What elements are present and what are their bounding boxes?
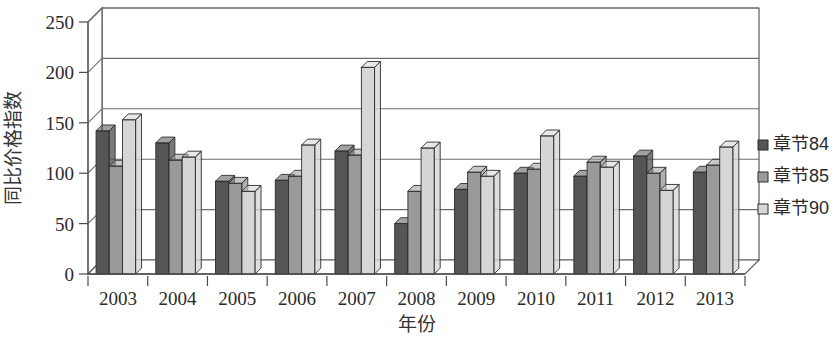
bar-group <box>216 175 261 274</box>
bar-front-face <box>541 136 554 274</box>
bar-side-face <box>195 151 201 274</box>
x-tick-label: 2007 <box>338 288 376 309</box>
x-tick-label: 2010 <box>517 288 555 309</box>
bar-front-face <box>454 189 467 274</box>
y-tick-label: 250 <box>46 12 75 33</box>
bar-front-face <box>660 190 673 274</box>
x-tick-label: 2005 <box>218 288 256 309</box>
legend-item[interactable]: 章节85 <box>758 166 829 186</box>
bar <box>660 184 679 274</box>
bar <box>242 185 261 274</box>
bar-side-face <box>673 184 679 274</box>
x-tick-label: 2006 <box>278 288 316 309</box>
bar-side-face <box>136 114 142 274</box>
bar-front-face <box>481 176 494 274</box>
bar-front-face <box>707 165 720 274</box>
bar-front-face <box>335 151 348 274</box>
bar-front-face <box>348 155 361 274</box>
bar-front-face <box>574 176 587 274</box>
bar-side-face <box>434 142 440 274</box>
bar-front-face <box>361 67 374 274</box>
y-tick-label: 50 <box>55 214 74 235</box>
bar-front-face <box>395 224 408 274</box>
bar <box>541 130 560 274</box>
bar-side-face <box>375 61 381 274</box>
bar <box>302 139 321 274</box>
y-tick-label: 100 <box>46 163 75 184</box>
bar-side-face <box>733 141 739 274</box>
legend-item[interactable]: 章节90 <box>758 198 829 218</box>
bar-front-face <box>527 169 540 274</box>
x-tick-label: 2009 <box>457 288 495 309</box>
bar-group <box>156 137 201 274</box>
x-axis: 2003200420052006200720082009201020112012… <box>88 274 745 309</box>
y-tick-label: 0 <box>65 264 75 285</box>
bar-front-face <box>216 181 229 274</box>
legend-label: 章节84 <box>773 134 829 154</box>
bar <box>481 170 500 274</box>
y-tick-label: 200 <box>46 62 75 83</box>
legend-swatch <box>758 204 768 214</box>
x-tick-label: 2013 <box>696 288 734 309</box>
bar-front-face <box>182 157 195 274</box>
bar-front-face <box>302 145 315 274</box>
bar-chart: 0501001502002502003200420052006200720082… <box>0 0 840 340</box>
bar-side-face <box>255 185 261 274</box>
bar-front-face <box>156 143 169 274</box>
bar-front-face <box>109 166 122 274</box>
bar-group <box>574 156 619 274</box>
bar-front-face <box>647 173 660 274</box>
bar-side-face <box>554 130 560 274</box>
bar-front-face <box>600 167 613 274</box>
bar-front-face <box>169 160 182 274</box>
bar-front-face <box>720 147 733 274</box>
legend: 章节84章节85章节90 <box>758 134 829 218</box>
legend-label: 章节85 <box>773 166 829 186</box>
x-axis-title: 年份 <box>398 314 436 335</box>
legend-label: 章节90 <box>773 198 829 218</box>
bar <box>122 114 141 274</box>
bar-front-face <box>587 162 600 274</box>
bar <box>600 161 619 274</box>
bar-side-face <box>315 139 321 274</box>
bar <box>182 151 201 274</box>
bar-front-face <box>514 173 527 274</box>
bar-front-face <box>693 172 706 274</box>
legend-swatch <box>758 140 768 150</box>
legend-swatch <box>758 172 768 182</box>
x-tick-label: 2003 <box>99 288 137 309</box>
bar-front-face <box>634 156 647 274</box>
y-axis: 050100150200250 <box>46 12 89 285</box>
bar-front-face <box>421 148 434 274</box>
x-tick-label: 2008 <box>398 288 436 309</box>
bar-side-face <box>613 161 619 274</box>
bar <box>720 141 739 274</box>
y-tick-label: 150 <box>46 113 75 134</box>
x-tick-label: 2012 <box>636 288 674 309</box>
bar-front-face <box>275 180 288 274</box>
bar-side-face <box>494 170 500 274</box>
bar-front-face <box>468 172 481 274</box>
bar <box>361 61 380 274</box>
bar-front-face <box>229 183 242 274</box>
x-tick-label: 2011 <box>577 288 614 309</box>
chart-canvas: 0501001502002502003200420052006200720082… <box>0 0 840 340</box>
bar <box>421 142 440 274</box>
bar-front-face <box>122 120 135 274</box>
bar-front-face <box>408 191 421 274</box>
bar-front-face <box>288 176 301 274</box>
legend-item[interactable]: 章节84 <box>758 134 829 154</box>
bar-front-face <box>242 191 255 274</box>
bar-front-face <box>96 131 109 274</box>
x-tick-label: 2004 <box>159 288 198 309</box>
y-axis-title: 同比价格指数 <box>3 91 24 205</box>
